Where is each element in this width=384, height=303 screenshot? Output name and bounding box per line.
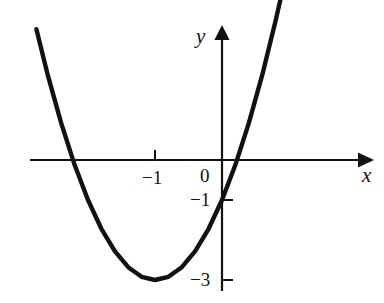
parabola-curve [36, 0, 282, 280]
y-axis-arrowhead [214, 25, 229, 40]
y-tick-label-neg3: −3 [190, 270, 210, 289]
x-axis-label: x [362, 165, 371, 186]
parabola-plot [0, 0, 384, 303]
y-tick-label-neg1: −1 [190, 190, 210, 209]
graph-figure: y x −1 0 −1 −3 [0, 0, 384, 303]
x-tick-label-neg1: −1 [142, 168, 162, 187]
y-axis-label: y [196, 26, 205, 47]
origin-label: 0 [200, 166, 210, 185]
